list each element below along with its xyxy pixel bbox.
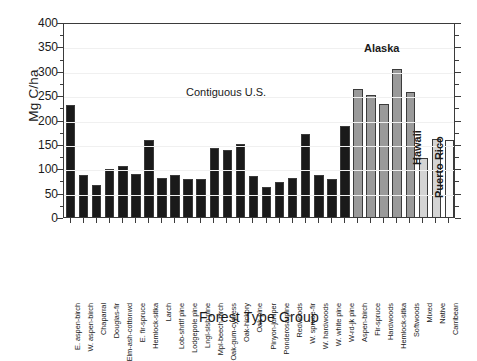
x-tick-mark bbox=[239, 218, 240, 223]
bar bbox=[275, 182, 284, 217]
y-tick-mark-right bbox=[455, 84, 459, 85]
bar bbox=[314, 175, 323, 217]
bar bbox=[419, 158, 428, 217]
y-tick-mark bbox=[57, 145, 63, 146]
y-axis-tick-labels: 050100150200250300350400 bbox=[20, 15, 58, 225]
x-axis-title: Forest Type Group bbox=[63, 309, 455, 325]
bar bbox=[236, 144, 245, 217]
x-tick-mark bbox=[396, 218, 397, 223]
x-tick-mark bbox=[200, 218, 201, 223]
bar bbox=[353, 89, 362, 217]
x-tick-mark bbox=[383, 218, 384, 223]
gridline bbox=[64, 195, 454, 196]
x-tick-mark bbox=[318, 218, 319, 223]
y-tick-label: 300 bbox=[20, 65, 58, 79]
x-tick-mark bbox=[109, 218, 110, 223]
bar bbox=[249, 176, 258, 217]
y-tick-mark bbox=[57, 121, 63, 122]
bar bbox=[170, 175, 179, 217]
y-tick-mark bbox=[60, 157, 64, 158]
y-tick-mark-right bbox=[455, 206, 459, 207]
y-tick-mark bbox=[57, 23, 63, 24]
y-tick-mark bbox=[60, 84, 64, 85]
x-tick-mark bbox=[213, 218, 214, 223]
x-tick-mark bbox=[331, 218, 332, 223]
bar bbox=[262, 187, 271, 217]
y-tick-label: 200 bbox=[20, 114, 58, 128]
y-tick-mark-right bbox=[455, 194, 461, 195]
x-tick-mark bbox=[148, 218, 149, 223]
y-tick-mark bbox=[57, 72, 63, 73]
bar bbox=[79, 175, 88, 217]
y-tick-mark bbox=[60, 60, 64, 61]
bar bbox=[144, 140, 153, 217]
x-tick-mark bbox=[122, 218, 123, 223]
bar bbox=[118, 166, 127, 217]
x-tick-mark bbox=[252, 218, 253, 223]
bar bbox=[445, 140, 454, 217]
y-tick-mark-right bbox=[455, 60, 459, 61]
gridline bbox=[64, 73, 454, 74]
bar bbox=[183, 179, 192, 217]
y-tick-mark bbox=[57, 169, 63, 170]
x-tick-mark bbox=[435, 218, 436, 223]
y-tick-mark-right bbox=[455, 72, 461, 73]
y-tick-mark-right bbox=[455, 145, 461, 146]
x-tick-mark bbox=[292, 218, 293, 223]
x-tick-mark bbox=[409, 218, 410, 223]
y-tick-mark-right bbox=[455, 218, 461, 219]
group-annotation-hawaii: Hawaii bbox=[411, 130, 423, 165]
bar bbox=[366, 95, 375, 217]
y-tick-mark-right bbox=[455, 157, 459, 158]
bar bbox=[340, 126, 349, 217]
y-tick-mark-right bbox=[455, 23, 461, 24]
y-tick-mark bbox=[60, 108, 64, 109]
y-tick-mark-right bbox=[455, 108, 459, 109]
gridline bbox=[64, 146, 454, 147]
y-tick-label: 50 bbox=[20, 187, 58, 201]
x-tick-mark bbox=[174, 218, 175, 223]
x-tick-mark bbox=[187, 218, 188, 223]
x-tick-mark bbox=[422, 218, 423, 223]
x-tick-mark bbox=[96, 218, 97, 223]
x-tick-mark bbox=[226, 218, 227, 223]
x-tick-mark bbox=[305, 218, 306, 223]
bar bbox=[210, 148, 219, 217]
y-tick-label: 250 bbox=[20, 89, 58, 103]
x-tick-mark bbox=[370, 218, 371, 223]
x-axis-tick-labels: E. aspen-birchW. aspen-birchChaparralDou… bbox=[63, 225, 455, 305]
x-tick-mark bbox=[135, 218, 136, 223]
x-tick-mark bbox=[161, 218, 162, 223]
group-annotation-alaska: Alaska bbox=[364, 42, 399, 54]
x-tick-mark bbox=[357, 218, 358, 223]
bar bbox=[288, 178, 297, 217]
x-axis-ticks bbox=[63, 218, 455, 224]
y-tick-mark bbox=[60, 35, 64, 36]
bar bbox=[105, 169, 114, 217]
y-tick-mark bbox=[60, 133, 64, 134]
y-tick-mark bbox=[60, 206, 64, 207]
y-tick-mark-right bbox=[455, 47, 461, 48]
y-tick-mark bbox=[60, 181, 64, 182]
bar bbox=[157, 178, 166, 217]
x-tick-mark bbox=[266, 218, 267, 223]
bar bbox=[92, 185, 101, 217]
x-tick-mark bbox=[448, 218, 449, 223]
bar bbox=[223, 150, 232, 217]
gridline bbox=[64, 122, 454, 123]
y-tick-mark-right bbox=[455, 121, 461, 122]
x-tick-mark bbox=[83, 218, 84, 223]
y-tick-mark-right bbox=[455, 181, 459, 182]
y-tick-label: 100 bbox=[20, 162, 58, 176]
bar bbox=[327, 179, 336, 218]
y-tick-mark-right bbox=[455, 133, 459, 134]
x-tick-mark bbox=[344, 218, 345, 223]
bar bbox=[196, 179, 205, 218]
y-tick-mark-right bbox=[455, 96, 461, 97]
y-tick-mark-right bbox=[455, 35, 459, 36]
group-annotation-puerto-rico: Puerto Rico bbox=[433, 136, 445, 198]
gridline bbox=[64, 170, 454, 171]
y-tick-mark-right bbox=[455, 169, 461, 170]
group-annotation-contiguous-us: Contiguous U.S. bbox=[186, 86, 266, 98]
y-tick-label: 350 bbox=[20, 40, 58, 54]
